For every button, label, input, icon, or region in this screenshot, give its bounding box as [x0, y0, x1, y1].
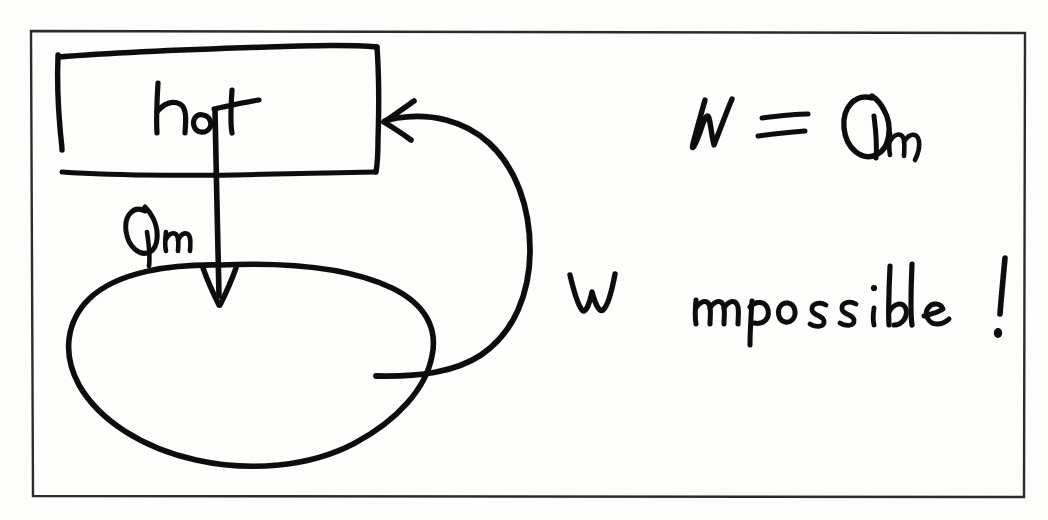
figure-page: partially cropped printed line	[0, 0, 1048, 520]
diagram-canvas	[0, 0, 1048, 520]
paper-background	[0, 0, 1048, 520]
